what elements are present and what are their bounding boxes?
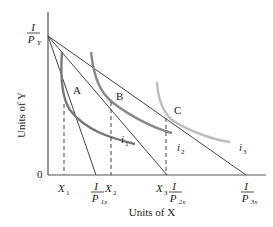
- svg-text:Y: Y: [37, 39, 42, 47]
- budget-line-3: [48, 36, 246, 175]
- x2-label: X 2: [104, 182, 117, 197]
- point-c-label: C: [174, 104, 181, 116]
- svg-text:2: 2: [113, 189, 117, 197]
- svg-text:I: I: [243, 180, 249, 192]
- svg-text:2: 2: [181, 148, 185, 156]
- indifference-curve-i1: [61, 52, 135, 144]
- svg-text:3: 3: [243, 148, 247, 156]
- svg-text:1: 1: [66, 189, 70, 197]
- x-axis-title: Units of X: [129, 206, 176, 218]
- svg-text:I: I: [30, 21, 36, 33]
- svg-text:P: P: [169, 192, 177, 204]
- svg-text:1: 1: [125, 140, 129, 148]
- x-intercept-2-label: I P 2x: [169, 180, 187, 206]
- y-intercept-label: I P Y: [27, 21, 42, 47]
- svg-text:I: I: [93, 180, 99, 192]
- svg-text:P: P: [27, 33, 35, 45]
- svg-text:1x: 1x: [101, 198, 109, 206]
- point-b-label: B: [116, 90, 123, 102]
- point-a-label: A: [73, 84, 81, 96]
- x3-label: X 3: [155, 182, 168, 197]
- budget-line-1: [48, 36, 96, 175]
- i2-label: i 2: [177, 141, 185, 156]
- svg-text:i: i: [121, 133, 124, 145]
- y-axis-title: Units of Y: [15, 92, 27, 138]
- x-intercept-3-label: I P 3x: [241, 180, 259, 206]
- origin-label: 0: [37, 168, 43, 180]
- svg-text:3: 3: [164, 189, 168, 197]
- svg-text:2x: 2x: [179, 198, 187, 206]
- i1-label: i 1: [121, 133, 129, 148]
- svg-text:X: X: [155, 182, 164, 194]
- svg-text:P: P: [241, 192, 249, 204]
- svg-text:X: X: [57, 182, 66, 194]
- svg-text:i: i: [177, 141, 180, 153]
- i3-label: i 3: [239, 141, 247, 156]
- svg-text:3x: 3x: [250, 198, 259, 206]
- diagram-canvas: I P Y Units of Y 0 A B C i 1 i 2 i 3 X 1…: [0, 0, 273, 227]
- svg-text:P: P: [91, 192, 99, 204]
- svg-text:I: I: [171, 180, 177, 192]
- indifference-curve-i2: [91, 52, 172, 133]
- budget-line-2: [48, 36, 167, 175]
- x1-label: X 1: [57, 182, 70, 197]
- svg-text:X: X: [104, 182, 113, 194]
- svg-text:i: i: [239, 141, 242, 153]
